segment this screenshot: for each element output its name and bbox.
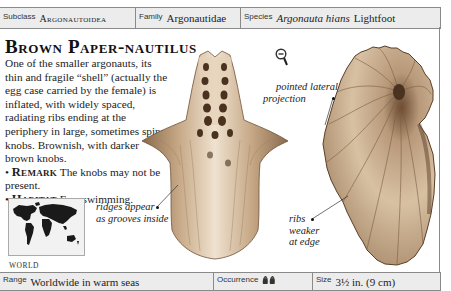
species-label: Species (244, 12, 272, 21)
annotation-line: weaker (289, 225, 320, 237)
range-label: Range (3, 275, 27, 284)
occurrence-shells-icon (262, 275, 276, 285)
size-label: Size (316, 275, 332, 284)
species-cell: Species Argonauta hians Lightfoot (241, 8, 440, 28)
info-bar: Range Worldwide in warm seas Occurrence … (0, 272, 441, 291)
shell-front-view (140, 45, 290, 260)
species-author: Lightfoot (354, 12, 396, 24)
family-value: Argonautidae (167, 12, 227, 24)
zoom-out-magnifier-icon[interactable] (275, 48, 289, 68)
classification-bar: Subclass Argonautoidea Family Argonautid… (0, 7, 441, 29)
range-cell: Range Worldwide in warm seas (0, 273, 214, 290)
species-value: Argonauta hians (276, 12, 349, 24)
annotation-line: ribs (289, 213, 320, 225)
subclass-label: Subclass (3, 12, 35, 21)
family-cell: Family Argonautidae (136, 8, 241, 28)
occurrence-label: Occurrence (217, 275, 258, 284)
annotation-line: projection (263, 93, 338, 105)
shell-side-view (315, 44, 440, 269)
annotation-line: ridges appear (96, 201, 169, 213)
annotation-ribs: ribs weaker at edge (289, 213, 320, 248)
annotation-line: at edge (289, 236, 320, 248)
annotation-line: as grooves inside (96, 213, 169, 225)
bullet: • (5, 166, 9, 178)
annotation-pointed-projection: pointed lateral projection (263, 81, 338, 104)
size-value: 3½ in. (9 cm) (336, 276, 396, 288)
size-cell: Size 3½ in. (9 cm) (313, 273, 440, 290)
remark-label: Remark (12, 165, 57, 179)
annotation-line: pointed lateral (263, 81, 338, 93)
map-label: WORLD (9, 261, 39, 270)
family-label: Family (139, 12, 163, 21)
subclass-value: Argonautoidea (39, 13, 106, 24)
annotation-ridges: ridges appear as grooves inside (96, 201, 169, 224)
occurrence-cell: Occurrence (214, 273, 313, 290)
range-value: Worldwide in warm seas (31, 276, 140, 288)
subclass-cell: Subclass Argonautoidea (0, 8, 136, 28)
world-map-icon (8, 198, 85, 256)
